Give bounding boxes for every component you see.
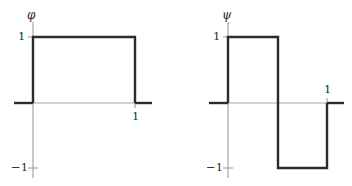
right-ytick-label-one: 1 (213, 31, 220, 43)
phi-curve-box (33, 37, 135, 103)
right-plot-axes (209, 22, 344, 178)
plots-canvas (0, 0, 352, 186)
right-plot-function-symbol: ψ (222, 9, 231, 21)
right-xtick-label-one: 1 (324, 84, 331, 96)
haar-basis-figure: φ 1 −1 1 ψ 1 −1 1 (0, 0, 352, 186)
left-plot-function-symbol: φ (27, 9, 35, 21)
left-plot-axes (14, 22, 152, 178)
left-plot-curve-group (14, 37, 152, 103)
right-ytick-label-minus-one: −1 (206, 162, 223, 174)
left-xtick-label-one: 1 (132, 111, 139, 123)
left-ytick-label-one: 1 (18, 31, 25, 43)
left-ytick-label-minus-one: −1 (11, 162, 28, 174)
